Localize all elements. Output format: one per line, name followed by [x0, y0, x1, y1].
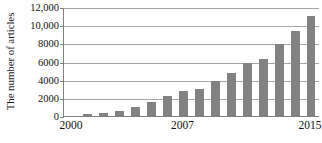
y-axis-tick-mark [60, 44, 64, 45]
y-axis-tick-labels: 12,00010,00080006000400020000 [20, 0, 62, 125]
bar [115, 111, 124, 117]
bar [211, 81, 220, 117]
y-axis-tick-label: 2000 [38, 94, 59, 105]
bars-group [64, 8, 319, 117]
bar [131, 107, 140, 117]
bar [307, 16, 316, 117]
x-axis-tick-label: 2007 [171, 119, 194, 132]
y-axis-tick-mark [60, 99, 64, 100]
plot-area [63, 8, 319, 117]
bar [68, 116, 77, 117]
x-axis-tick-label: 2015 [299, 119, 322, 132]
bar [163, 96, 172, 117]
x-axis-tick-labels: 200020072015 [63, 119, 322, 139]
bar [179, 91, 188, 117]
y-axis-title-label: The number of articles [6, 12, 17, 110]
y-axis-tick-label: 6000 [38, 58, 59, 69]
bar [147, 102, 156, 117]
y-axis-tick-label: 10,000 [30, 21, 59, 32]
bar [99, 113, 108, 117]
y-axis-title: The number of articles [0, 0, 22, 122]
y-axis-tick-mark [60, 81, 64, 82]
bar [195, 89, 204, 117]
y-axis-tick-mark [60, 8, 64, 9]
bar [227, 73, 236, 117]
bar [243, 63, 252, 117]
bar [291, 31, 300, 117]
bar [83, 114, 92, 117]
bar-chart: The number of articles 12,00010,00080006… [0, 0, 322, 143]
x-axis-tick-label: 2000 [59, 119, 82, 132]
y-axis-tick-label: 12,000 [30, 3, 59, 14]
y-axis-tick-label: 4000 [38, 76, 59, 87]
y-axis-tick-mark [60, 117, 64, 118]
y-axis-tick-label: 0 [54, 112, 59, 123]
y-axis-tick-mark [60, 26, 64, 27]
bar [275, 44, 284, 117]
bar [259, 59, 268, 117]
y-axis-tick-mark [60, 63, 64, 64]
y-axis-tick-label: 8000 [38, 39, 59, 50]
